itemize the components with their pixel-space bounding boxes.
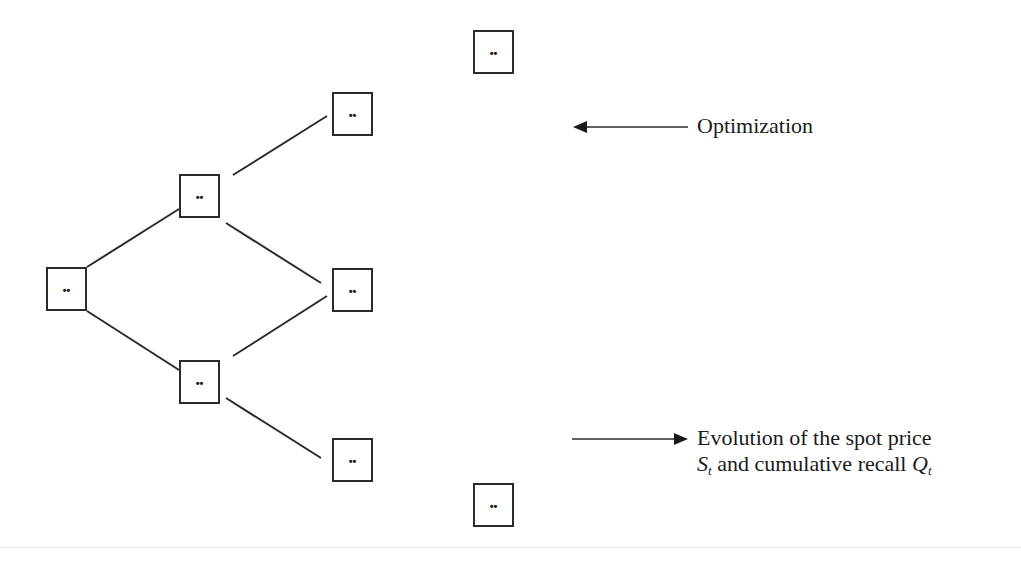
cumulative-recall-symbol: Q: [912, 451, 928, 476]
tree-node-level2-mid: ••: [332, 268, 373, 312]
tree-node-root: ••: [46, 267, 87, 311]
tree-node-level3-bottom: ••: [473, 483, 514, 527]
tree-node-level2-down: ••: [332, 438, 373, 482]
optimization-arrowhead-icon: [573, 121, 587, 133]
edge-root-to-l1-down: [87, 311, 179, 370]
tree-node-level1-up: ••: [179, 174, 220, 218]
cumulative-recall-subscript: t: [928, 463, 932, 478]
evolution-middle-text: and cumulative recall: [712, 451, 912, 476]
tree-node-level3-top: ••: [473, 30, 514, 74]
tree-node-level1-down: ••: [179, 360, 220, 404]
edge-l1-up-to-l2-mid: [226, 223, 321, 283]
node-label: ••: [349, 110, 357, 121]
edge-root-to-l1-up: [87, 209, 179, 267]
optimization-text: Optimization: [697, 113, 813, 138]
node-label: ••: [490, 48, 498, 59]
edge-l1-down-to-l2-mid: [233, 296, 327, 356]
scan-artifact-rule: [0, 547, 1021, 548]
edge-l1-up-to-l2-up: [233, 116, 327, 175]
evolution-line-2: St and cumulative recall Qt: [697, 451, 932, 477]
node-label: ••: [490, 501, 498, 512]
spot-price-symbol: S: [697, 451, 708, 476]
optimization-label: Optimization: [697, 113, 813, 139]
evolution-label: Evolution of the spot price St and cumul…: [697, 425, 932, 477]
binomial-tree-diagram: •• •• •• •• •• •• •• •• Optimization Evo…: [0, 0, 1021, 569]
node-label: ••: [349, 286, 357, 297]
node-label: ••: [63, 285, 71, 296]
node-label: ••: [196, 192, 204, 203]
node-label: ••: [349, 456, 357, 467]
evolution-line-1: Evolution of the spot price: [697, 425, 932, 451]
tree-node-level2-up: ••: [332, 92, 373, 136]
node-label: ••: [196, 378, 204, 389]
edge-l1-down-to-l2-down: [226, 398, 321, 458]
evolution-arrowhead-icon: [674, 433, 688, 445]
